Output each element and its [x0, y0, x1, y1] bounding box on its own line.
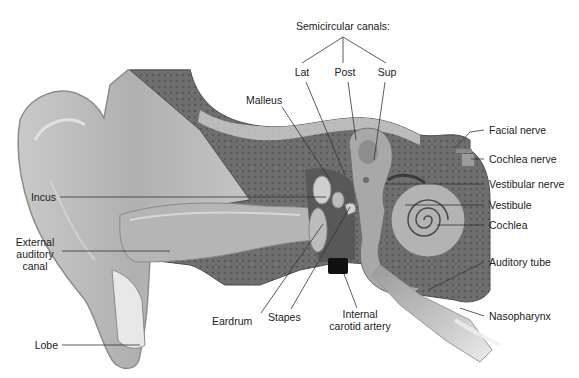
- label-eardrum: Eardrum: [212, 315, 252, 327]
- label-cochlea-nerve: Cochlea nerve: [489, 153, 557, 165]
- label-external-auditory-canal: External auditory canal: [10, 236, 60, 272]
- eardrum-shape: [309, 208, 327, 252]
- internal-carotid-artery-shape: [328, 258, 348, 274]
- label-vestibular-nerve: Vestibular nerve: [489, 178, 564, 190]
- label-external-auditory-canal-line-3: canal: [10, 260, 60, 272]
- label-external-auditory-canal-line-2: auditory: [10, 248, 60, 260]
- label-vestibule: Vestibule: [489, 199, 532, 211]
- label-internal-carotid-artery: Internal carotid artery: [320, 308, 400, 332]
- label-cochlea: Cochlea: [489, 219, 528, 231]
- label-internal-carotid-artery-line-2: carotid artery: [320, 320, 400, 332]
- cochlea-shape: [391, 183, 465, 257]
- semicircular-canals-heading: Semicircular canals:: [293, 20, 393, 32]
- incus-shape: [332, 192, 344, 208]
- label-lobe: Lobe: [10, 339, 58, 351]
- label-stapes: Stapes: [268, 311, 301, 323]
- label-sup: Sup: [372, 66, 402, 78]
- label-auditory-tube: Auditory tube: [489, 256, 551, 268]
- label-nasopharynx: Nasopharynx: [489, 310, 551, 322]
- middle-ear-cavity: [305, 168, 356, 262]
- label-malleus: Malleus: [246, 94, 282, 106]
- label-external-auditory-canal-line-1: External: [10, 236, 60, 248]
- ear-anatomy-diagram: Semicircular canals: Lat Post Sup Malleu…: [0, 0, 579, 378]
- label-lat: Lat: [288, 66, 316, 78]
- label-facial-nerve: Facial nerve: [489, 124, 546, 136]
- malleus-shape: [313, 176, 331, 204]
- label-incus: Incus: [10, 191, 56, 203]
- label-post: Post: [330, 66, 360, 78]
- label-internal-carotid-artery-line-1: Internal: [320, 308, 400, 320]
